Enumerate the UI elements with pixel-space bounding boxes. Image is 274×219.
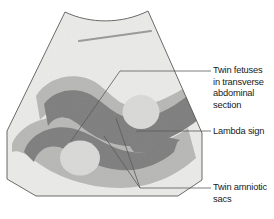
callout-twin-fetuses: Twin fetuses in transverse abdominal sec… xyxy=(213,65,274,111)
callout-twin-amniotic-sacs: Twin amniotic sacs xyxy=(213,182,274,205)
ultrasound-figure: Twin fetuses in transverse abdominal sec… xyxy=(0,0,274,219)
callout-lambda-sign: Lambda sign xyxy=(213,126,274,138)
